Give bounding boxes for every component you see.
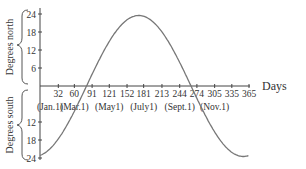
x-tick-label: 60 — [70, 89, 80, 99]
y-tick-label: 24 — [27, 154, 37, 164]
x-tick-label: 335 — [225, 89, 240, 99]
month-label: (Nov.1) — [200, 102, 229, 113]
x-tick-label: 91 — [87, 89, 97, 99]
month-label: (Sept.1) — [165, 102, 195, 113]
chart: 326091121152181213244274305335365 612182… — [0, 0, 306, 169]
y-tick-label: 6 — [31, 64, 36, 74]
y-tick-label: 12 — [27, 118, 37, 128]
month-labels: (Jan.1)(Mar.1)(May1)(July1)(Sept.1)(Nov.… — [37, 102, 229, 113]
south-bracket: Degrees south — [4, 90, 28, 160]
y-tick-label: 18 — [27, 28, 37, 38]
x-tick-label: 213 — [155, 89, 170, 99]
y-label-south: Degrees south — [4, 97, 15, 154]
x-tick-label: 181 — [137, 89, 152, 99]
y-tick-label: 18 — [27, 136, 37, 146]
y-tick-label: 12 — [27, 46, 37, 56]
north-bracket: Degrees north — [4, 10, 28, 84]
month-label: (May1) — [95, 102, 124, 113]
y-label-north: Degrees north — [4, 19, 15, 75]
x-axis-label: Days — [262, 79, 287, 93]
x-tick-label: 32 — [54, 89, 64, 99]
x-tick-label: 365 — [242, 89, 257, 99]
x-tick-label: 244 — [173, 89, 188, 99]
x-tick-label: 305 — [208, 89, 223, 99]
x-tick-label: 152 — [120, 89, 135, 99]
month-label: (July1) — [130, 102, 157, 113]
x-tick-label: 121 — [102, 89, 117, 99]
y-tick-label: 24 — [27, 10, 37, 20]
